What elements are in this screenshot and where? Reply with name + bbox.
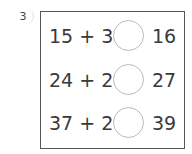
left-expression: 24 + 2 [49, 68, 113, 92]
comparison-row: 37 + 2 39 [41, 107, 184, 139]
comparison-row: 24 + 2 27 [41, 64, 184, 96]
answer-circle[interactable] [113, 20, 144, 51]
answer-circle[interactable] [113, 107, 144, 138]
comparison-box: 15 + 3 16 24 + 2 27 37 + 2 39 [40, 11, 185, 149]
answer-circle[interactable] [113, 64, 144, 95]
problem-number: 3 [14, 8, 32, 26]
left-expression: 37 + 2 [49, 111, 113, 135]
comparison-row: 15 + 3 16 [41, 20, 184, 52]
right-value: 16 [152, 24, 176, 48]
right-value: 39 [152, 111, 176, 135]
left-expression: 15 + 3 [49, 24, 113, 48]
right-value: 27 [152, 68, 176, 92]
